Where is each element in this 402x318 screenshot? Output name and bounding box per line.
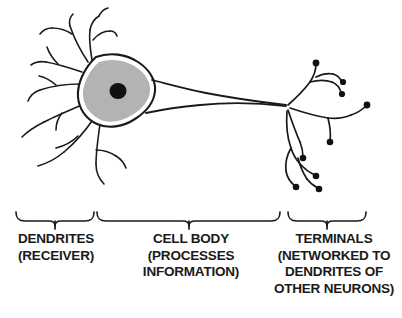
label-cell-body-line-2: (PROCESSES xyxy=(118,248,264,265)
label-dendrites-line-1: DENDRITES xyxy=(2,231,110,248)
label-dendrites: DENDRITES (RECEIVER) xyxy=(2,231,110,264)
dendrites-bracket xyxy=(16,212,94,229)
label-terminals-line-4: OTHER NEURONS) xyxy=(268,281,400,298)
bouton xyxy=(313,60,320,67)
bouton xyxy=(316,186,323,193)
bouton xyxy=(340,79,346,85)
label-terminals: TERMINALS (NETWORKED TO DENDRITES OF OTH… xyxy=(268,231,400,297)
bouton xyxy=(293,184,300,191)
bouton xyxy=(339,91,345,97)
label-cell-body: CELL BODY (PROCESSES INFORMATION) xyxy=(118,231,264,281)
brackets xyxy=(16,212,366,229)
label-dendrites-line-2: (RECEIVER) xyxy=(2,248,110,265)
label-cell-body-line-3: INFORMATION) xyxy=(118,264,264,281)
nucleus xyxy=(110,83,127,99)
neuron-diagram-page: DENDRITES (RECEIVER) CELL BODY (PROCESSE… xyxy=(0,0,402,318)
bouton xyxy=(300,155,307,162)
label-terminals-line-1: TERMINALS xyxy=(268,231,400,248)
label-terminals-line-2: (NETWORKED TO xyxy=(268,248,400,265)
axon-terminals xyxy=(286,64,366,188)
bouton xyxy=(313,173,320,180)
label-terminals-line-3: DENDRITES OF xyxy=(268,264,400,281)
bouton xyxy=(364,102,371,109)
terminal-boutons xyxy=(293,60,371,193)
terminals-bracket xyxy=(288,212,366,229)
label-cell-body-line-1: CELL BODY xyxy=(118,231,264,248)
axon xyxy=(146,80,286,113)
bouton xyxy=(327,139,334,146)
cell-body-bracket xyxy=(97,212,280,229)
